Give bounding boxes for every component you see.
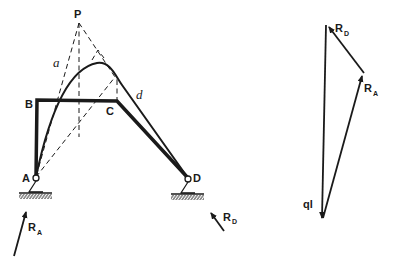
label-C: C: [106, 105, 114, 117]
svg-text:D: D: [232, 218, 237, 225]
force-polygon: [322, 25, 364, 218]
label-RD: R D: [223, 211, 237, 225]
structural-diagram: P B C A D a d R A R D R D R A ql: [0, 0, 397, 272]
force-vector-RA: [323, 76, 362, 218]
force-vector-ql: [322, 25, 326, 218]
label-curve-d: d: [136, 87, 143, 102]
svg-text:R: R: [28, 221, 36, 233]
svg-text:R: R: [364, 82, 372, 94]
svg-text:A: A: [373, 90, 378, 97]
svg-text:A: A: [37, 229, 42, 236]
dashed-line-P-C: [79, 23, 117, 80]
svg-text:D: D: [344, 30, 349, 37]
label-A: A: [22, 172, 30, 184]
label-B: B: [25, 98, 33, 110]
label-P: P: [74, 8, 81, 20]
reaction-arrow-RA: [14, 212, 26, 256]
svg-text:R: R: [223, 211, 231, 223]
polygon-label-RA: R A: [364, 82, 378, 97]
label-D: D: [193, 172, 201, 184]
svg-text:R: R: [335, 22, 343, 34]
polygon-label-ql: ql: [303, 198, 313, 210]
polygon-label-RD: R D: [335, 22, 349, 37]
label-RA: R A: [28, 221, 42, 236]
dashed-line-A-tangent: [36, 77, 115, 177]
label-curve-a: a: [53, 55, 60, 70]
